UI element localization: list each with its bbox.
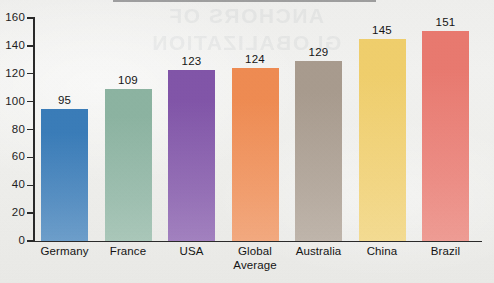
category-label-germany: Germany — [33, 245, 97, 259]
category-label-line1: France — [110, 245, 146, 257]
category-label-usa: USA — [160, 245, 224, 259]
bar-france[interactable]: 109 — [105, 89, 152, 241]
y-tick-160 — [27, 17, 34, 18]
bar-chart: 020406080100120140160 951091231241291451… — [0, 0, 494, 283]
chart-page: ANCHORS OF GLOBALIZATION 020406080100120… — [0, 0, 494, 283]
y-tick-label-20: 20 — [0, 206, 25, 218]
y-tick-120 — [27, 73, 34, 74]
bar-germany[interactable]: 95 — [41, 109, 88, 241]
category-label-line1: China — [367, 245, 398, 257]
bar-value-label: 109 — [118, 74, 138, 86]
y-tick-100 — [27, 101, 34, 102]
category-label-australia: Australia — [287, 245, 351, 259]
y-tick-label-40: 40 — [0, 178, 25, 190]
y-tick-20 — [27, 212, 34, 213]
y-tick-label-60: 60 — [0, 150, 25, 162]
bar-value-label: 124 — [245, 53, 265, 65]
category-label-line1: Germany — [41, 245, 89, 257]
bar-usa[interactable]: 123 — [168, 70, 215, 241]
y-tick-0 — [27, 240, 34, 241]
category-label-line1: Global — [238, 245, 272, 257]
y-tick-label-160: 160 — [0, 11, 25, 23]
category-label-france: France — [96, 245, 160, 259]
category-label-brazil: Brazil — [414, 245, 478, 259]
category-label-line2: Average — [223, 259, 287, 273]
y-tick-label-140: 140 — [0, 39, 25, 51]
category-label-line1: Australia — [296, 245, 342, 257]
bar-value-label: 129 — [309, 46, 329, 58]
category-label-global-average: GlobalAverage — [223, 245, 287, 272]
y-tick-40 — [27, 185, 34, 186]
y-tick-label-120: 120 — [0, 67, 25, 79]
y-tick-label-0: 0 — [0, 234, 25, 246]
bar-global-average[interactable]: 124 — [232, 68, 279, 241]
y-tick-140 — [27, 45, 34, 46]
bar-value-label: 145 — [372, 24, 392, 36]
y-tick-80 — [27, 129, 34, 130]
bar-australia[interactable]: 129 — [295, 61, 342, 241]
y-tick-label-100: 100 — [0, 95, 25, 107]
y-axis-tick-labels: 020406080100120140160 — [0, 0, 26, 283]
category-label-china: China — [350, 245, 414, 259]
bar-value-label: 95 — [58, 94, 71, 106]
y-tick-label-80: 80 — [0, 123, 25, 135]
bar-value-label: 123 — [182, 55, 202, 67]
bar-value-label: 151 — [436, 16, 456, 28]
category-label-line1: Brazil — [431, 245, 460, 257]
bar-brazil[interactable]: 151 — [422, 31, 469, 241]
category-label-line1: USA — [180, 245, 204, 257]
bar-china[interactable]: 145 — [359, 39, 406, 241]
y-tick-60 — [27, 157, 34, 158]
